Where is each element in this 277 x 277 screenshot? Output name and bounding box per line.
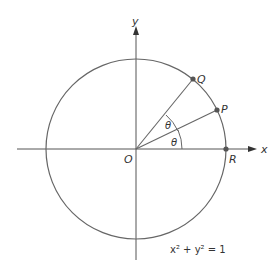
x-axis-label: x <box>260 143 268 156</box>
point-q-label: Q <box>197 73 206 86</box>
origin-label: O <box>124 153 133 166</box>
diagram-canvas: x y O Q P R θ θ x² + y² = 1 <box>0 0 277 277</box>
x-axis-arrow-icon <box>248 146 257 152</box>
ray-oq <box>136 79 193 149</box>
point-p <box>214 107 219 112</box>
unit-circle-diagram: x y O Q P R θ θ x² + y² = 1 <box>0 0 277 277</box>
point-r <box>223 146 228 151</box>
circle-equation: x² + y² = 1 <box>170 244 226 255</box>
angle-label-upper: θ <box>165 120 171 131</box>
y-axis-label: y <box>131 15 139 28</box>
point-q <box>190 76 195 81</box>
angle-label-lower: θ <box>171 137 177 148</box>
angle-arc-1 <box>178 130 182 149</box>
point-r-label: R <box>229 153 237 166</box>
point-p-label: P <box>221 103 228 116</box>
